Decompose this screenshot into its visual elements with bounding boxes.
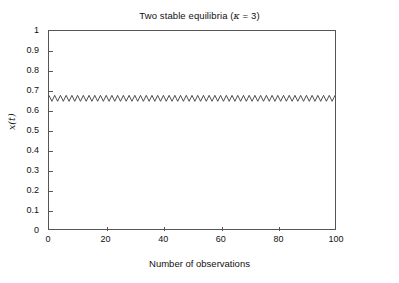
y-tick-mark bbox=[49, 51, 53, 52]
x-tick-mark bbox=[164, 227, 165, 231]
y-axis-label: x(t) bbox=[6, 113, 17, 130]
plot-area bbox=[48, 30, 336, 230]
y-tick-mark bbox=[49, 71, 53, 72]
x-tick-mark bbox=[107, 227, 108, 231]
y-tick-label: 0.2 bbox=[26, 185, 39, 195]
chart-title: Two stable equilibria (κ = 3) bbox=[0, 10, 399, 21]
y-tick-label: 0.3 bbox=[26, 165, 39, 175]
y-tick-mark bbox=[49, 91, 53, 92]
y-tick-label: 1 bbox=[34, 25, 39, 35]
y-tick-mark bbox=[49, 151, 53, 152]
y-tick-mark bbox=[49, 191, 53, 192]
series-path bbox=[49, 95, 335, 101]
chart-title-suffix: = 3) bbox=[240, 10, 260, 21]
y-tick-label: 0.9 bbox=[26, 45, 39, 55]
x-axis-label: Number of observations bbox=[0, 258, 399, 269]
y-tick-label: 0.5 bbox=[26, 125, 39, 135]
y-tick-label: 0.4 bbox=[26, 145, 39, 155]
y-tick-mark bbox=[49, 211, 53, 212]
y-tick-label: 0 bbox=[34, 225, 39, 235]
y-tick-label: 0.1 bbox=[26, 205, 39, 215]
y-tick-label: 0.7 bbox=[26, 85, 39, 95]
y-tick-mark bbox=[49, 131, 53, 132]
y-axis-ticks: 00.10.20.30.40.50.60.70.80.91 bbox=[12, 30, 44, 230]
x-tick-label: 0 bbox=[45, 234, 50, 244]
y-tick-label: 0.8 bbox=[26, 65, 39, 75]
chart-title-prefix: Two stable equilibria ( bbox=[139, 10, 233, 21]
y-tick-mark bbox=[49, 111, 53, 112]
data-series-line bbox=[49, 31, 335, 229]
x-tick-label: 60 bbox=[216, 234, 226, 244]
x-tick-label: 100 bbox=[328, 234, 343, 244]
x-tick-label: 80 bbox=[273, 234, 283, 244]
chart-figure: Two stable equilibria (κ = 3) 00.10.20.3… bbox=[0, 0, 399, 283]
x-tick-label: 20 bbox=[101, 234, 111, 244]
x-tick-mark bbox=[222, 227, 223, 231]
x-tick-label: 40 bbox=[158, 234, 168, 244]
x-tick-mark bbox=[279, 227, 280, 231]
y-tick-label: 0.6 bbox=[26, 105, 39, 115]
x-axis-ticks: 020406080100 bbox=[48, 234, 336, 248]
y-tick-mark bbox=[49, 171, 53, 172]
